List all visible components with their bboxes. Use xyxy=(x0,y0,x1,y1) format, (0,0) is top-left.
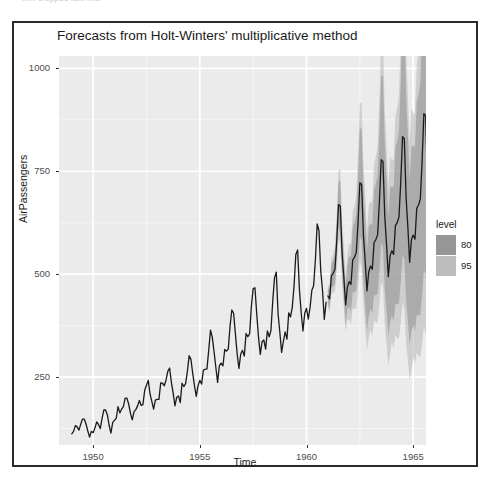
legend-swatch xyxy=(436,256,456,276)
chart-title: Forecasts from Holt-Winters' multiplicat… xyxy=(57,28,357,43)
legend-item-label: 95 xyxy=(461,260,472,271)
legend-item[interactable]: 80 xyxy=(436,234,480,255)
cropped-top-text: thin cropped text line xyxy=(22,0,100,3)
x-axis-tick-mark xyxy=(307,445,308,448)
x-axis-tick-mark xyxy=(93,445,94,448)
legend-item-label: 80 xyxy=(461,239,472,250)
y-axis-title: AirPassengers xyxy=(17,155,29,223)
y-axis-tick-label: 1000 xyxy=(14,62,50,73)
y-axis-tick-mark xyxy=(56,274,59,275)
x-axis-title-text: Time xyxy=(234,456,257,468)
x-axis-tick-mark xyxy=(413,445,414,448)
x-axis-tick-mark xyxy=(200,445,201,448)
legend-items: 8095 xyxy=(436,234,480,276)
x-axis-title: Time xyxy=(14,456,476,468)
y-axis-tick-label: 250 xyxy=(14,371,50,382)
legend-swatch xyxy=(436,235,456,255)
y-axis-tick-label: 500 xyxy=(14,268,50,279)
legend-title: level xyxy=(436,219,480,230)
legend: level 8095 xyxy=(436,219,480,276)
legend-item[interactable]: 95 xyxy=(436,255,480,276)
plot-canvas xyxy=(59,56,426,445)
figure-frame: Forecasts from Holt-Winters' multiplicat… xyxy=(12,21,478,467)
cropped-top-text-strip: thin cropped text line xyxy=(0,0,492,12)
y-axis-tick-mark xyxy=(56,68,59,69)
plot-panel xyxy=(59,56,426,445)
y-axis-tick-mark xyxy=(56,377,59,378)
y-axis-tick-mark xyxy=(56,171,59,172)
